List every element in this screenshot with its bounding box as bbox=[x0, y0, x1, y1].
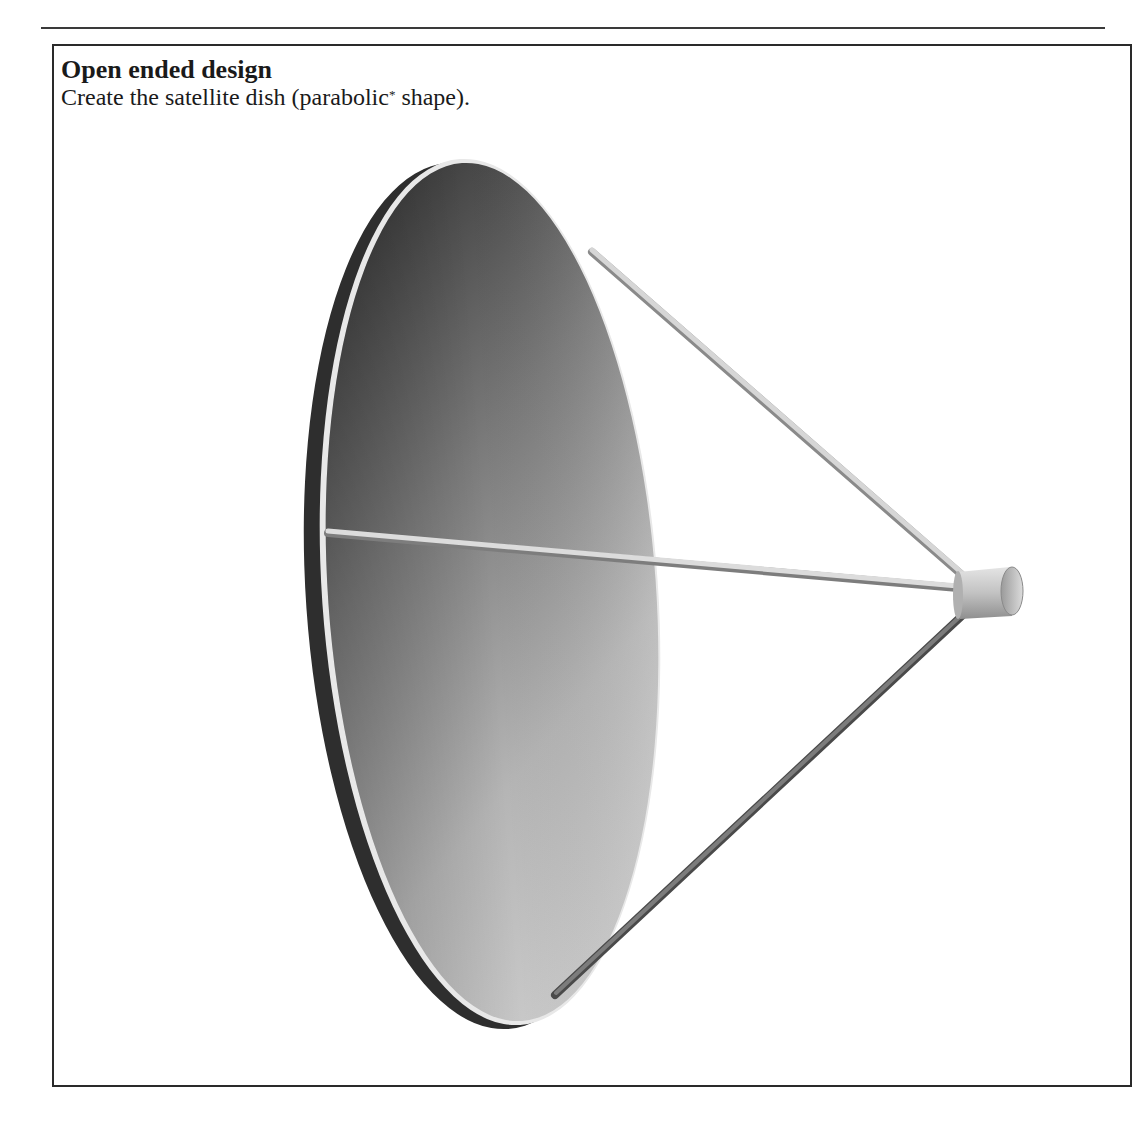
feed-horn-cylinder bbox=[953, 567, 1023, 619]
